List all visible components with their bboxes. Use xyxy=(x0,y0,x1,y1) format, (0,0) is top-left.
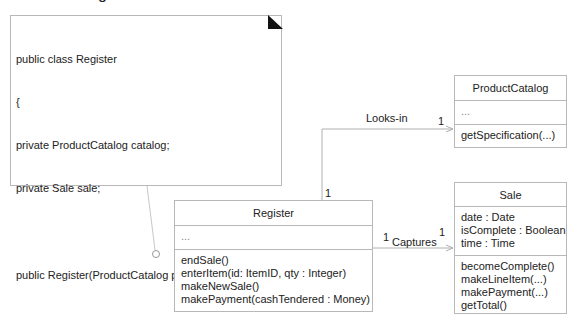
class-register[interactable]: Register ... endSale() enterItem(id: Ite… xyxy=(174,200,373,312)
attribute: time : Time xyxy=(461,237,560,250)
operation: enterItem(id: ItemID, qty : Integer) xyxy=(181,267,366,280)
attribute: isComplete : Boolean xyxy=(461,224,560,237)
operation: getSpecification(...) xyxy=(461,129,560,142)
multiplicity-source: 1 xyxy=(325,187,331,199)
class-name: ProductCatalog xyxy=(455,76,566,101)
operation: endSale() xyxy=(181,254,366,267)
operations-section: endSale() enterItem(id: ItemID, qty : In… xyxy=(175,250,372,310)
operation: becomeComplete() xyxy=(461,260,560,273)
operation: makePayment(cashTendered : Money) xyxy=(181,293,366,306)
operation: makePayment(...) xyxy=(461,286,560,299)
association-label-looks-in: Looks-in xyxy=(366,112,408,124)
class-name: Sale xyxy=(455,183,566,207)
note-line: public class Register xyxy=(16,52,276,66)
operation: makeLineItem(...) xyxy=(461,273,560,286)
class-name: Register xyxy=(175,201,372,226)
attributes-section: ... xyxy=(455,101,566,125)
attribute: date : Date xyxy=(461,211,560,224)
operation: getTotal() xyxy=(461,299,560,312)
note-line: { xyxy=(16,95,276,109)
operation: makeNewSale() xyxy=(181,280,366,293)
association-label-captures: Captures xyxy=(392,236,437,248)
operations-section: becomeComplete() makeLineItem(...) makeP… xyxy=(455,256,566,316)
note-line: private Sale sale; xyxy=(16,181,276,195)
multiplicity-target: 1 xyxy=(438,115,444,127)
attributes-section: date : Date isComplete : Boolean time : … xyxy=(455,207,566,256)
multiplicity-source: 1 xyxy=(383,231,389,243)
note-line xyxy=(16,311,276,325)
attribute: ... xyxy=(461,105,560,118)
operations-section: getSpecification(...) xyxy=(455,125,566,146)
multiplicity-target: 1 xyxy=(439,226,445,238)
attribute: ... xyxy=(181,230,366,243)
class-sale[interactable]: Sale date : Date isComplete : Boolean ti… xyxy=(454,182,567,314)
attributes-section: ... xyxy=(175,226,372,250)
class-product-catalog[interactable]: ProductCatalog ... getSpecification(...) xyxy=(454,75,567,148)
note-line: private ProductCatalog catalog; xyxy=(16,138,276,152)
